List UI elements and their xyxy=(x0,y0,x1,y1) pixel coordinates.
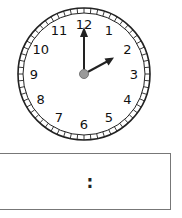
numeral-3: 3 xyxy=(130,67,138,82)
center-pivot xyxy=(80,70,89,79)
time-separator: : xyxy=(87,172,94,192)
numeral-5: 5 xyxy=(105,110,113,125)
numeral-8: 8 xyxy=(37,92,45,107)
numeral-2: 2 xyxy=(123,42,131,57)
numeral-4: 4 xyxy=(123,92,131,107)
numeral-9: 9 xyxy=(30,67,38,82)
digital-time-box[interactable]: : xyxy=(0,153,171,210)
numeral-11: 11 xyxy=(51,23,68,38)
numeral-1: 1 xyxy=(105,23,113,38)
analog-clock: 121234567891011 xyxy=(0,0,182,148)
numeral-7: 7 xyxy=(55,110,63,125)
numeral-10: 10 xyxy=(32,42,49,57)
numeral-6: 6 xyxy=(80,117,88,132)
